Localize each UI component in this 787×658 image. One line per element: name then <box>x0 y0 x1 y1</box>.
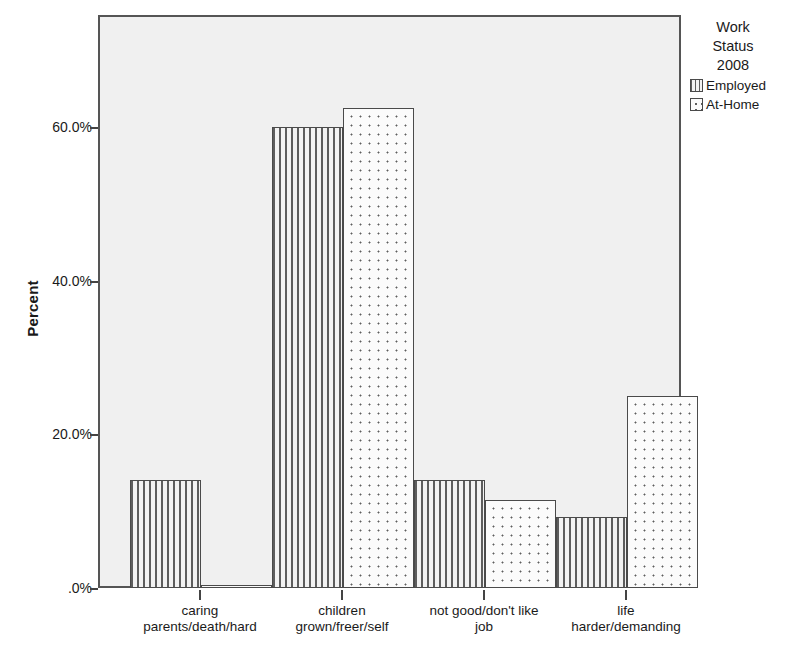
x-tick-mark-4 <box>625 590 627 600</box>
legend-swatch-employed-icon <box>690 79 703 92</box>
bar-athome-not-good-job <box>485 500 556 588</box>
plot-area <box>98 15 681 588</box>
bar-chart-figure: Percent .0% 20.0% 40.0% 60.0% caring par… <box>0 0 787 658</box>
bar-employed-life-harder <box>556 517 627 588</box>
y-tick-mark-0 <box>90 588 98 590</box>
y-tick-mark-40 <box>90 281 98 283</box>
legend-entry-athome: At-Home <box>690 96 787 113</box>
y-tick-label-60: 60.0% <box>0 119 92 135</box>
legend-title: Work Status 2008 <box>692 18 774 75</box>
x-label-line2: harder/demanding <box>536 619 716 635</box>
x-tick-mark-3 <box>483 590 485 600</box>
legend-title-line1: Work <box>692 18 774 37</box>
legend-label-employed: Employed <box>706 78 766 93</box>
bar-employed-not-good-job <box>414 480 485 588</box>
y-axis-title: Percent <box>24 249 41 369</box>
legend: Work Status 2008 Employed At-Home <box>690 18 787 113</box>
legend-title-line3: 2008 <box>692 56 774 75</box>
bar-employed-caring-parents <box>130 480 201 588</box>
x-tick-label-life-harder: life harder/demanding <box>536 603 716 635</box>
x-label-line1: life <box>536 603 716 619</box>
bar-athome-caring-parents <box>201 585 272 588</box>
y-tick-label-20: 20.0% <box>0 426 92 442</box>
x-tick-mark-2 <box>341 590 343 600</box>
bar-athome-life-harder <box>627 396 698 588</box>
bar-employed-children-grown <box>272 127 343 588</box>
bar-athome-children-grown <box>343 108 414 588</box>
x-tick-mark-1 <box>199 590 201 600</box>
y-tick-mark-20 <box>90 434 98 436</box>
legend-title-line2: Status <box>692 37 774 56</box>
y-tick-mark-60 <box>90 127 98 129</box>
legend-entry-employed: Employed <box>690 77 787 94</box>
y-tick-label-0: .0% <box>0 580 92 596</box>
y-tick-label-40: 40.0% <box>0 273 92 289</box>
legend-swatch-athome-icon <box>690 98 703 111</box>
legend-label-athome: At-Home <box>706 97 759 112</box>
